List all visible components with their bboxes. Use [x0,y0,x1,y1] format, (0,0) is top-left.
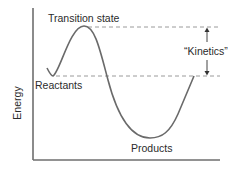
reactants-label: Reactants [35,79,82,91]
transition-state-label: Transition state [48,12,120,24]
arrow-up-icon [205,28,210,33]
y-axis-label: Energy [11,86,23,120]
energy-diagram: Transition state “Kinetics” Reactants Pr… [0,0,228,171]
products-label: Products [131,142,172,154]
arrow-down-icon [205,71,210,76]
kinetics-label: “Kinetics” [184,45,228,57]
